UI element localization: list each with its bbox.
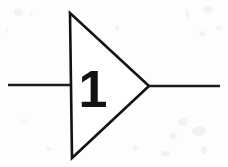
schematic-canvas: 1 — [0, 0, 228, 167]
gate-label: 1 — [79, 60, 108, 118]
schematic-figure: 1 — [0, 0, 228, 167]
